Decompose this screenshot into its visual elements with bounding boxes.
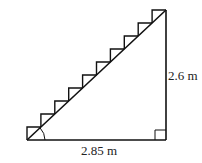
height-label: 2.6 m <box>168 68 198 83</box>
base-label: 2.85 m <box>81 143 117 158</box>
staircase-diagram: 2.85 m 2.6 m <box>0 0 202 163</box>
angle-arc <box>40 128 45 140</box>
right-angle-marker <box>155 130 166 140</box>
